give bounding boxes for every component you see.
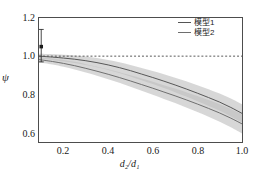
x-tick-label-0.4: 0.4 [93, 146, 123, 156]
y-axis-label: ψ [2, 72, 9, 83]
errorbar-marker [39, 45, 43, 49]
legend-item-model-1: 模型1 [178, 18, 214, 27]
legend: 模型1 模型2 [178, 18, 214, 37]
chart-figure: ψ 1.2 1.0 0.8 0.6 0.2 0.4 0.6 0.8 1.0 d₂… [0, 0, 259, 178]
legend-label-model-2: 模型2 [194, 29, 214, 37]
legend-line-swatch-model-2 [178, 32, 191, 33]
y-tick-label-0.8: 0.8 [9, 90, 35, 100]
legend-label-model-1: 模型1 [194, 19, 214, 27]
y-tick-label-0.6: 0.6 [9, 129, 35, 139]
x-tick-label-1.0: 1.0 [227, 146, 257, 156]
y-tick-label-1.0: 1.0 [9, 51, 35, 61]
confidence-bands [39, 54, 242, 134]
x-axis-label: d₂/d₁ [0, 159, 259, 169]
y-tick-label-1.2: 1.2 [9, 13, 35, 23]
x-tick-label-0.6: 0.6 [138, 146, 168, 156]
x-tick-label-0.8: 0.8 [183, 146, 213, 156]
x-tick-label-0.2: 0.2 [48, 146, 78, 156]
legend-line-swatch-model-1 [178, 22, 191, 23]
legend-item-model-2: 模型2 [178, 28, 214, 37]
x-axis-label-text: d₂/d₁ [120, 158, 140, 169]
